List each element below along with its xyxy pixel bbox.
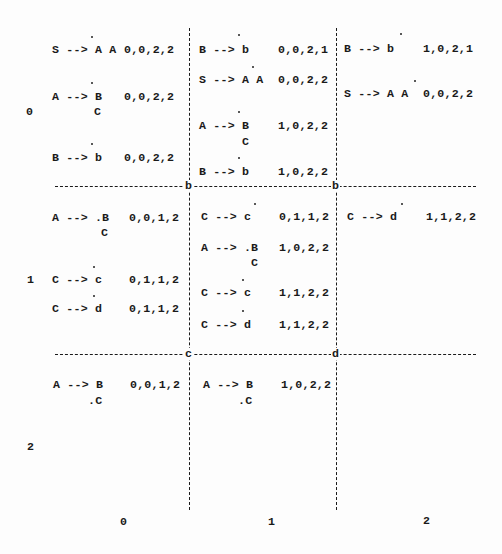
item-span: 0,0,2,2 xyxy=(124,43,174,57)
col-label-2: 2 xyxy=(423,514,430,528)
col-label-0: 0 xyxy=(120,515,127,529)
item-rule-continuation: C xyxy=(242,135,249,149)
item-rule: S --> A A xyxy=(52,43,116,57)
item-dot-marker xyxy=(414,80,416,82)
item-rule: S --> A A xyxy=(199,73,263,87)
item-rule: B --> b xyxy=(52,151,102,165)
item-span: 1,0,2,2 xyxy=(278,119,328,133)
item-dot-marker xyxy=(401,203,403,205)
item-span: 0,0,2,2 xyxy=(278,73,328,87)
row-label-1: 1 xyxy=(27,273,34,287)
item-dot-marker xyxy=(400,33,402,35)
item-rule: B --> b xyxy=(344,42,394,56)
item-dot-marker xyxy=(254,203,256,205)
item-dot-marker xyxy=(238,34,240,36)
item-span: 0,1,1,2 xyxy=(279,210,329,224)
item-span: 0,1,1,2 xyxy=(129,302,179,316)
row-divider-1-2 xyxy=(55,354,476,355)
item-span: 1,0,2,1 xyxy=(423,42,473,56)
item-dot-marker xyxy=(242,310,244,312)
item-dot-marker xyxy=(91,36,93,38)
item-rule-continuation: .C xyxy=(238,394,252,408)
item-rule-continuation: C xyxy=(101,226,108,240)
item-span: 0,0,1,2 xyxy=(129,211,179,225)
item-rule: C --> c xyxy=(52,273,102,287)
grid-node-top-right: b xyxy=(331,180,340,192)
item-rule: B --> b xyxy=(199,165,249,179)
item-span: 0,0,2,2 xyxy=(124,151,174,165)
item-span: 1,0,2,2 xyxy=(278,165,328,179)
item-span: 0,0,2,2 xyxy=(124,90,174,104)
item-rule: A --> B xyxy=(199,119,249,133)
grid-node-bottom-right: d xyxy=(331,348,340,360)
item-rule: C --> d xyxy=(52,302,102,316)
item-rule: C --> d xyxy=(201,318,251,332)
row-label-0: 0 xyxy=(26,105,33,119)
item-rule: C --> d xyxy=(347,210,397,224)
item-dot-marker xyxy=(242,279,244,281)
col-label-1: 1 xyxy=(268,515,275,529)
item-span: 0,1,1,2 xyxy=(129,273,179,287)
chart-parse-diagram: b b c d 0 1 2 0 1 2 S --> A A 0,0,2,2 A … xyxy=(0,0,502,554)
item-rule-continuation: C xyxy=(251,256,258,270)
column-divider-1-2 xyxy=(336,28,337,510)
item-rule: A --> B xyxy=(52,90,102,104)
grid-node-bottom-left: c xyxy=(184,348,193,360)
item-rule-continuation: .C xyxy=(88,394,102,408)
item-rule: A --> B xyxy=(203,378,253,392)
item-rule: B --> b xyxy=(199,43,249,57)
item-rule: A --> .B xyxy=(201,241,258,255)
row-divider-0-1 xyxy=(55,186,476,187)
item-span: 1,1,2,2 xyxy=(279,286,329,300)
item-dot-marker xyxy=(93,295,95,297)
item-rule: C --> c xyxy=(201,210,251,224)
item-span: 1,0,2,2 xyxy=(281,378,331,392)
column-divider-0-1 xyxy=(189,28,190,510)
item-span: 0,0,1,2 xyxy=(130,378,180,392)
row-label-2: 2 xyxy=(27,440,34,454)
item-span: 0,0,2,2 xyxy=(423,87,473,101)
item-rule: C --> c xyxy=(201,286,251,300)
item-dot-marker xyxy=(238,157,240,159)
item-rule: A --> .B xyxy=(52,211,109,225)
item-dot-marker xyxy=(91,143,93,145)
item-dot-marker xyxy=(238,111,240,113)
item-dot-marker xyxy=(252,66,254,68)
item-rule: A --> B xyxy=(53,378,103,392)
item-rule-continuation: C xyxy=(94,105,101,119)
item-span: 1,0,2,2 xyxy=(279,241,329,255)
item-span: 1,1,2,2 xyxy=(279,318,329,332)
item-dot-marker xyxy=(91,82,93,84)
item-dot-marker xyxy=(93,266,95,268)
grid-node-top-left: b xyxy=(184,180,193,192)
item-span: 0,0,2,1 xyxy=(278,43,328,57)
item-rule: S --> A A xyxy=(344,87,408,101)
item-span: 1,1,2,2 xyxy=(426,210,476,224)
